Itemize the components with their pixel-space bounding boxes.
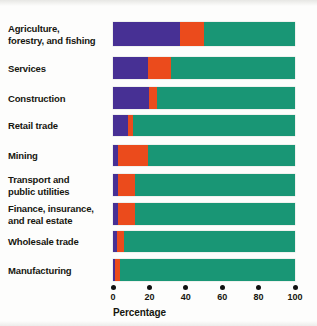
bar-segment-2: [117, 231, 124, 252]
bar-segment-3: [148, 145, 295, 166]
bar-segment-2: [118, 174, 134, 196]
axis-tick-label: 40: [166, 292, 206, 302]
bar-segment-3: [124, 231, 295, 252]
category-label-line: forestry, and fishing: [8, 35, 108, 47]
bar-segment-3: [204, 22, 295, 46]
bar-segment-3: [133, 115, 295, 136]
axis-tick-dot: [183, 285, 188, 290]
category-label: Retail trade: [8, 120, 108, 132]
category-label: Transport andpublic utilities: [8, 174, 108, 197]
chart-row: Manufacturing: [0, 259, 317, 281]
axis-tick-dot: [111, 285, 116, 290]
stacked-bar: [113, 115, 295, 136]
chart-row: Transport andpublic utilities: [0, 174, 317, 196]
stacked-bar: [113, 87, 295, 109]
stacked-bar: [113, 57, 295, 79]
bar-segment-1: [113, 115, 128, 136]
category-label-line: Finance, insurance,: [8, 203, 108, 215]
category-label-line: public utilities: [8, 186, 108, 198]
category-label: Construction: [8, 93, 108, 105]
category-label: Finance, insurance,and real estate: [8, 203, 108, 226]
stacked-bar-chart: Agriculture,forestry, and fishingService…: [0, 0, 317, 326]
category-label-line: Manufacturing: [8, 265, 108, 277]
bar-segment-1: [113, 87, 149, 109]
stacked-bar: [113, 174, 295, 196]
category-label-line: Mining: [8, 150, 108, 162]
bar-segment-3: [120, 259, 295, 281]
bar-segment-2: [180, 22, 204, 46]
bar-segment-3: [157, 87, 295, 109]
axis-tick-dot: [147, 285, 152, 290]
x-axis: Percentage 020406080100: [0, 285, 317, 326]
category-label: Manufacturing: [8, 265, 108, 277]
bar-segment-1: [113, 22, 180, 46]
axis-tick-label: 20: [129, 292, 169, 302]
axis-title: Percentage: [113, 307, 166, 318]
category-label: Mining: [8, 150, 108, 162]
category-label-line: and real estate: [8, 215, 108, 227]
stacked-bar: [113, 231, 295, 252]
chart-row: Retail trade: [0, 115, 317, 136]
stacked-bar: [113, 203, 295, 225]
bar-segment-3: [135, 203, 295, 225]
stacked-bar: [113, 259, 295, 281]
chart-row: Mining: [0, 145, 317, 166]
chart-row: Agriculture,forestry, and fishing: [0, 22, 317, 46]
stacked-bar: [113, 22, 295, 46]
axis-tick-label: 60: [202, 292, 242, 302]
axis-tick-dot: [293, 285, 298, 290]
category-label-line: Wholesale trade: [8, 236, 108, 248]
bar-segment-1: [113, 57, 148, 79]
bar-segment-2: [149, 87, 156, 109]
bar-segment-2: [148, 57, 172, 79]
bar-segment-2: [118, 145, 147, 166]
chart-row: Construction: [0, 87, 317, 109]
category-label: Services: [8, 63, 108, 75]
chart-row: Finance, insurance,and real estate: [0, 203, 317, 225]
stacked-bar: [113, 145, 295, 166]
category-label-line: Transport and: [8, 174, 108, 186]
category-label: Wholesale trade: [8, 236, 108, 248]
axis-tick-dot: [256, 285, 261, 290]
plot-area: Agriculture,forestry, and fishingService…: [0, 0, 317, 326]
bar-segment-3: [135, 174, 295, 196]
axis-tick-label: 80: [239, 292, 279, 302]
category-label-line: Construction: [8, 93, 108, 105]
category-label: Agriculture,forestry, and fishing: [8, 23, 108, 46]
bar-segment-3: [171, 57, 295, 79]
category-label-line: Retail trade: [8, 120, 108, 132]
axis-tick-dot: [220, 285, 225, 290]
axis-tick-label: 0: [93, 292, 133, 302]
category-label-line: Services: [8, 63, 108, 75]
chart-row: Services: [0, 57, 317, 79]
axis-tick-label: 100: [275, 292, 315, 302]
bar-segment-2: [118, 203, 134, 225]
chart-row: Wholesale trade: [0, 231, 317, 252]
category-label-line: Agriculture,: [8, 23, 108, 35]
